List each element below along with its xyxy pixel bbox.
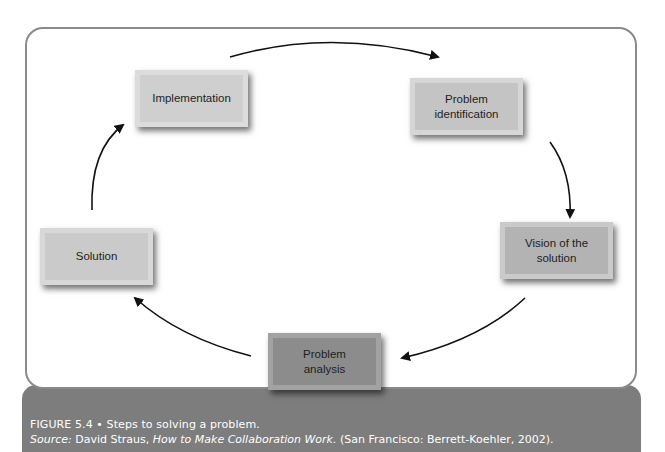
arrow-solution-to-implementation [92,125,123,210]
source-work: How to Make Collaboration Work. [153,433,337,446]
arrow-vision-to-analysis [402,298,525,358]
step-label: Solution [76,249,118,264]
caption-title: Steps to solving a problem. [107,418,260,431]
step-label: Problemanalysis [303,347,346,377]
step-label: Problemidentification [435,92,499,122]
caption-source-line: Source: David Straus, How to Make Collab… [30,432,554,447]
caption-title-line: FIGURE 5.4 • Steps to solving a problem. [30,417,554,432]
source-label: Source: [30,433,72,446]
figure-caption: FIGURE 5.4 • Steps to solving a problem.… [30,417,554,447]
step-problem-analysis: Problemanalysis [268,333,381,390]
arrow-implementation-to-identification [230,43,438,58]
source-author: David Straus, [75,433,149,446]
step-label: Vision of thesolution [525,236,588,266]
step-implementation: Implementation [135,70,248,127]
figure-number: FIGURE 5.4 [30,418,93,431]
step-problem-identification: Problemidentification [410,78,523,135]
step-label: Implementation [152,91,231,106]
caption-separator: • [96,418,103,431]
arrow-identification-to-vision [550,142,570,217]
step-vision-of-solution: Vision of thesolution [500,222,613,279]
source-publisher: (San Francisco: Berrett-Koehler, 2002). [340,433,554,446]
arrow-analysis-to-solution [135,298,251,356]
step-solution: Solution [40,228,153,285]
